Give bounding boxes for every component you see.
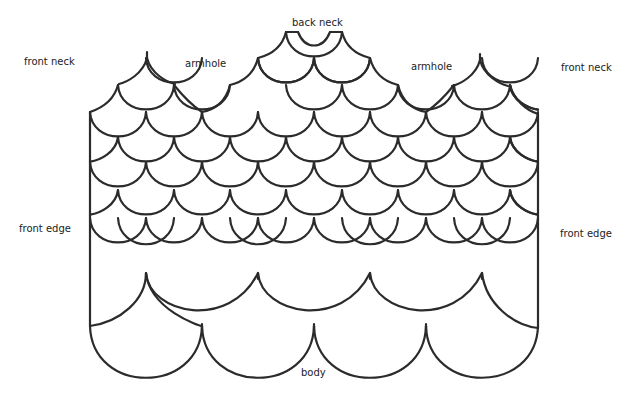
label-front-edge-left: front edge <box>19 223 71 234</box>
scale-outline <box>286 85 342 109</box>
scale-outline <box>230 58 258 85</box>
scale-outline <box>452 60 480 86</box>
scale-outline <box>146 162 202 186</box>
scale-outline <box>482 162 538 186</box>
scale-outline <box>398 85 454 109</box>
label-body: body <box>301 367 326 378</box>
scale-outline <box>482 112 538 136</box>
scale-outline <box>90 85 118 112</box>
scale-outline <box>174 85 230 109</box>
scale-outline <box>258 112 314 136</box>
scale-outline <box>90 326 202 378</box>
scale-outline <box>482 273 538 328</box>
scale-outline <box>342 190 398 214</box>
scale-outline <box>454 137 510 161</box>
scale-pattern-diagram: front neck armhole back neck armhole fro… <box>0 0 625 398</box>
scale-outline <box>90 273 146 326</box>
scale-outline <box>426 112 482 136</box>
scale-outline <box>118 137 174 161</box>
scale-outline <box>90 137 118 162</box>
scale-outline <box>314 58 370 82</box>
scale-outline <box>118 190 174 214</box>
scale-outline <box>230 137 286 161</box>
scale-outline <box>510 190 538 215</box>
scale-outline <box>426 326 538 378</box>
scale-grid-drawing <box>0 0 625 398</box>
scale-outline <box>258 58 314 82</box>
label-armhole-right: armhole <box>411 61 452 72</box>
label-back-neck: back neck <box>292 17 343 28</box>
scale-outline <box>146 112 202 136</box>
scale-outline <box>342 137 398 161</box>
scale-outline <box>202 326 314 378</box>
scale-outline <box>202 162 258 186</box>
scale-outline <box>482 58 538 82</box>
scale-outline <box>370 273 482 310</box>
scale-outline <box>510 137 538 162</box>
scale-outline <box>258 273 370 310</box>
scale-outline <box>314 162 370 186</box>
scale-outline <box>398 137 454 161</box>
scale-outline <box>370 162 426 186</box>
scale-outline <box>426 162 482 186</box>
scale-outline <box>454 85 510 109</box>
scale-outline <box>398 190 454 214</box>
scale-outline <box>119 58 147 84</box>
scale-outline <box>342 32 370 58</box>
scale-outline <box>90 190 118 215</box>
label-front-edge-right: front edge <box>560 228 612 239</box>
scale-outline <box>370 112 426 136</box>
scale-outline <box>230 190 286 214</box>
scale-outline <box>314 326 426 378</box>
scale-outline <box>202 112 258 136</box>
scale-outline <box>314 112 370 136</box>
scale-outline <box>286 32 342 46</box>
label-front-neck-right: front neck <box>561 62 612 73</box>
scale-outline <box>118 85 174 109</box>
scale-outline <box>146 273 202 326</box>
scale-outline <box>314 58 370 82</box>
scale-outline <box>174 137 230 161</box>
scale-outline <box>90 112 146 136</box>
scale-outline <box>258 58 314 82</box>
scale-outline <box>258 162 314 186</box>
scale-outline <box>342 85 398 109</box>
scale-outline <box>90 162 146 186</box>
scale-outline <box>286 137 342 161</box>
scale-outline <box>286 190 342 214</box>
scale-outline <box>370 58 398 85</box>
scale-outline <box>286 32 342 56</box>
label-armhole-left: armhole <box>185 58 226 69</box>
scale-outline <box>258 32 286 58</box>
scale-outline <box>174 190 230 214</box>
scale-outline <box>454 190 510 214</box>
label-front-neck-left: front neck <box>24 56 75 67</box>
